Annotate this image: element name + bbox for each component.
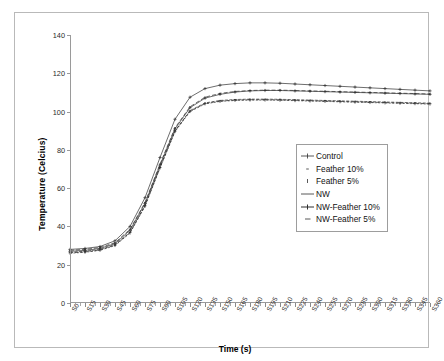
x-tick-label: S360 [430, 296, 444, 313]
y-tick-label: 100 [35, 107, 65, 116]
x-tick-mark-minor [185, 303, 186, 306]
x-tick-mark-minor [305, 303, 306, 306]
x-tick-mark-minor [345, 303, 346, 306]
y-tick-mark [67, 73, 70, 74]
data-point-marker [398, 92, 401, 95]
data-point-marker [308, 83, 311, 86]
x-tick-mark-minor [245, 303, 246, 306]
legend-label: Control [316, 151, 343, 161]
data-point-marker [203, 87, 206, 90]
x-tick-mark-minor [330, 303, 331, 306]
legend-item: Control [301, 150, 380, 163]
y-tick-mark [67, 150, 70, 151]
x-tick-mark-minor [230, 303, 231, 306]
x-tick-mark-minor [225, 303, 226, 306]
data-point-marker [368, 91, 371, 94]
x-tick-mark-minor [255, 303, 256, 306]
data-point-marker [323, 90, 326, 93]
legend-item: Feather 10% [301, 163, 380, 176]
data-point-marker [293, 82, 296, 85]
data-point-marker [428, 93, 431, 96]
data-point-marker [293, 89, 296, 92]
y-tick-mark [67, 35, 70, 36]
x-tick-mark-minor [315, 303, 316, 306]
data-point-marker [383, 87, 386, 90]
data-point-marker [323, 84, 326, 87]
legend-label: NW [316, 189, 330, 199]
x-tick-mark-minor [165, 303, 166, 306]
y-tick-label: 140 [35, 31, 65, 40]
data-point-marker [353, 85, 356, 88]
x-axis-title: Time (s) [165, 344, 305, 354]
x-tick-mark-minor [195, 303, 196, 306]
x-tick-mark-minor [275, 303, 276, 306]
legend-marker-icon [301, 152, 314, 160]
x-tick-mark-minor [395, 303, 396, 306]
legend-marker-icon [301, 215, 314, 223]
legend-item: Feather 5% [301, 175, 380, 188]
x-tick-mark-minor [90, 303, 91, 306]
chart-frame: Temperature (Celcius) 020406080100120140… [14, 12, 429, 348]
x-tick-mark-minor [215, 303, 216, 306]
x-tick-mark-minor [140, 303, 141, 306]
y-tick-mark [67, 188, 70, 189]
x-tick-mark-minor [120, 303, 121, 306]
legend-marker-icon [301, 190, 314, 198]
legend-item: NW [301, 188, 380, 201]
x-tick-mark-minor [110, 303, 111, 306]
x-tick-mark-minor [95, 303, 96, 306]
x-tick-mark-minor [290, 303, 291, 306]
x-tick-mark-minor [125, 303, 126, 306]
y-tick-label: 120 [35, 69, 65, 78]
y-tick-mark [67, 112, 70, 113]
x-tick-mark-minor [180, 303, 181, 306]
data-point-marker [233, 90, 236, 93]
data-point-marker [278, 89, 281, 92]
x-tick-mark-minor [135, 303, 136, 306]
x-tick-mark-minor [75, 303, 76, 306]
x-tick-mark-minor [410, 303, 411, 306]
x-tick-mark-minor [380, 303, 381, 306]
x-tick-mark-minor [425, 303, 426, 306]
data-point-marker [413, 89, 416, 92]
x-tick-mark-minor [350, 303, 351, 306]
legend-item: NW-Feather 5% [301, 213, 380, 226]
data-point-marker [338, 90, 341, 93]
data-point-marker [263, 89, 266, 92]
y-tick-mark [67, 265, 70, 266]
data-point-marker [338, 85, 341, 88]
data-point-marker [368, 86, 371, 89]
legend-label: NW-Feather 5% [316, 214, 375, 224]
data-point-marker [143, 196, 146, 199]
data-point-marker [413, 92, 416, 95]
x-tick-mark-minor [80, 303, 81, 306]
data-point-marker [233, 82, 236, 85]
x-tick-mark-minor [365, 303, 366, 306]
data-point-marker [248, 81, 251, 84]
x-tick-mark-minor [260, 303, 261, 306]
data-point-marker [263, 81, 266, 84]
y-tick-label: 20 [35, 260, 65, 269]
x-tick-mark-minor [270, 303, 271, 306]
chart-legend: ControlFeather 10%Feather 5%NWNW-Feather… [296, 144, 388, 232]
data-point-marker [428, 89, 431, 92]
x-tick-mark-minor [210, 303, 211, 306]
x-tick-mark-minor [320, 303, 321, 306]
x-tick-mark-minor [200, 303, 201, 306]
data-point-marker [308, 90, 311, 93]
x-tick-mark-minor [285, 303, 286, 306]
legend-marker-icon [301, 177, 314, 185]
data-point-marker [158, 156, 161, 159]
legend-label: Feather 5% [316, 176, 359, 186]
data-point-marker [218, 84, 221, 87]
x-tick-mark-minor [390, 303, 391, 306]
data-point-marker [98, 245, 101, 248]
legend-item: NW-Feather 10% [301, 200, 380, 213]
y-tick-label: 80 [35, 145, 65, 154]
x-tick-mark-minor [335, 303, 336, 306]
data-point-marker [353, 91, 356, 94]
x-tick-mark-minor [375, 303, 376, 306]
x-tick-mark-minor [360, 303, 361, 306]
legend-label: NW-Feather 10% [316, 202, 380, 212]
y-tick-label: 40 [35, 222, 65, 231]
